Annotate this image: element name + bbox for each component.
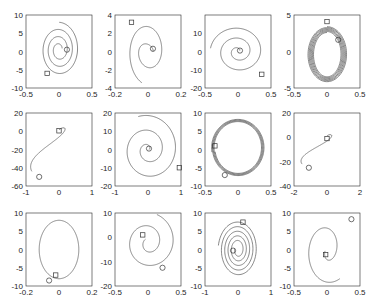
y-tick-label: 5	[19, 227, 24, 236]
subplot-6: -10120100-10-20	[100, 109, 183, 197]
y-tick-label: -40	[279, 182, 291, 191]
y-tick-label: 5	[287, 11, 292, 20]
axes-box	[115, 15, 181, 88]
figure: -0.500.51050-5-10-0.200.2420-2-4-0.500.5…	[0, 0, 376, 308]
axes-box	[205, 15, 271, 88]
subplot-7: -0.500.51050-5-10	[190, 109, 277, 197]
y-tick-label: -60	[11, 182, 23, 191]
subplot-10: -0.500.5100-10-20	[100, 209, 187, 297]
x-tick-label: 0	[146, 90, 151, 99]
subplot-8: -202200-20-40	[279, 109, 362, 197]
y-tick-label: -20	[100, 282, 112, 291]
subplot-1: -0.500.51050-5-10	[11, 11, 98, 99]
subplot-9: -0.200.21050-5-10	[11, 209, 98, 297]
x-tick-label: 0.5	[175, 288, 187, 297]
x-tick-label: 0	[146, 188, 151, 197]
y-tick-label: 0	[19, 48, 24, 57]
y-tick-label: 0	[287, 133, 292, 142]
y-tick-label: 0	[198, 246, 203, 255]
y-tick-label: 0	[287, 48, 292, 57]
y-tick-label: 5	[19, 29, 24, 38]
y-tick-label: -10	[100, 164, 112, 173]
y-tick-label: 10	[103, 127, 112, 136]
y-tick-label: 5	[198, 227, 203, 236]
y-tick-label: 20	[103, 109, 112, 118]
y-tick-label: 0	[287, 246, 292, 255]
x-tick-label: 0.5	[354, 90, 366, 99]
y-tick-label: -5	[284, 264, 292, 273]
subplot-12: -0.500.51050-5-10	[279, 209, 366, 297]
x-tick-label: -2	[290, 188, 298, 197]
y-tick-label: -10	[279, 282, 291, 291]
y-tick-label: -10	[11, 84, 23, 93]
x-tick-label: -1	[22, 188, 30, 197]
x-tick-label: 0.5	[354, 288, 366, 297]
x-tick-label: 0.5	[265, 188, 277, 197]
y-tick-label: -5	[195, 164, 203, 173]
axes-box	[294, 213, 360, 286]
y-tick-label: -20	[190, 84, 202, 93]
x-tick-label: 1	[179, 188, 184, 197]
y-tick-label: 5	[287, 227, 292, 236]
y-tick-label: -40	[11, 164, 23, 173]
y-tick-label: -5	[195, 264, 203, 273]
x-tick-label: 0	[236, 288, 241, 297]
y-tick-label: 0	[108, 146, 113, 155]
subplot-3: -0.500.5100-10-20	[190, 15, 277, 99]
y-tick-label: 10	[103, 209, 112, 218]
y-tick-label: -20	[11, 146, 23, 155]
axes-box	[26, 213, 92, 286]
y-tick-label: 0	[198, 48, 203, 57]
y-tick-label: 0	[108, 233, 113, 242]
y-tick-label: 20	[282, 109, 291, 118]
x-tick-label: 0	[325, 288, 330, 297]
x-tick-label: 0	[325, 188, 330, 197]
axes-box	[205, 213, 271, 286]
y-tick-label: -10	[100, 258, 112, 267]
subplot-2: -0.200.2420-2-4	[105, 11, 187, 99]
subplot-5: -101200-20-40-60	[11, 109, 94, 197]
x-tick-label: -1	[111, 188, 119, 197]
subplot-4: -0.500.550-5	[284, 11, 366, 99]
y-tick-label: -20	[279, 158, 291, 167]
x-tick-label: 2	[358, 188, 363, 197]
y-tick-label: 0	[198, 146, 203, 155]
y-tick-label: 10	[14, 11, 23, 20]
y-tick-label: 10	[282, 209, 291, 218]
y-tick-label: -10	[190, 282, 202, 291]
y-tick-label: -10	[190, 66, 202, 75]
y-tick-label: -2	[105, 66, 113, 75]
x-tick-label: 0.2	[175, 90, 187, 99]
x-tick-label: 0	[57, 188, 62, 197]
x-tick-label: 0.2	[86, 288, 98, 297]
x-tick-label: 0	[146, 288, 151, 297]
x-tick-label: 1	[269, 288, 274, 297]
x-tick-label: 0	[325, 90, 330, 99]
y-tick-label: 10	[193, 29, 202, 38]
x-tick-label: 0	[236, 188, 241, 197]
y-tick-label: 0	[108, 48, 113, 57]
y-tick-label: -5	[16, 264, 24, 273]
y-tick-label: -20	[100, 182, 112, 191]
x-tick-label: -1	[201, 288, 209, 297]
x-tick-label: 0	[236, 90, 241, 99]
axes-box	[26, 15, 92, 88]
y-tick-label: 10	[14, 209, 23, 218]
x-tick-label: 0	[57, 90, 62, 99]
y-tick-label: -10	[11, 282, 23, 291]
y-tick-label: 20	[14, 109, 23, 118]
y-tick-label: 2	[108, 29, 113, 38]
subplot-11: -1011050-5-10	[190, 209, 273, 297]
y-tick-label: 10	[193, 209, 202, 218]
x-tick-label: 0.5	[86, 90, 98, 99]
y-tick-label: 10	[193, 109, 202, 118]
y-tick-label: -5	[16, 66, 24, 75]
y-tick-label: 4	[108, 11, 113, 20]
axes-box	[26, 113, 92, 186]
y-tick-label: -5	[284, 84, 292, 93]
y-tick-label: -10	[190, 182, 202, 191]
x-tick-label: 1	[90, 188, 95, 197]
y-tick-label: 5	[198, 127, 203, 136]
y-tick-label: 0	[19, 246, 24, 255]
axes-box	[115, 113, 181, 186]
